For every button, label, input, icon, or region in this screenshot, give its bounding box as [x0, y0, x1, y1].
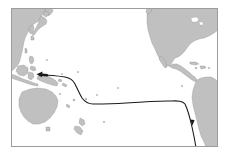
land-french-polynesia — [117, 87, 118, 88]
land-coral-sea-islet — [59, 93, 61, 95]
land-taiwan — [25, 48, 27, 53]
map-canvas — [0, 0, 229, 155]
land-vanuatu — [73, 99, 75, 101]
land-marshall-islands — [77, 71, 78, 72]
land-fiji — [85, 98, 87, 100]
land-jamaica — [195, 67, 197, 69]
land-galapagos — [181, 85, 183, 87]
land-mariana-islands — [46, 59, 47, 60]
land-chatham-islands — [103, 121, 105, 123]
land-puerto-rico — [208, 67, 210, 69]
pacific-route-map-figure — [0, 0, 229, 155]
land-samoa — [96, 94, 97, 95]
land-tasmania — [46, 127, 50, 131]
route-terminus-stub — [40, 75, 47, 76]
land-palau — [61, 73, 62, 74]
map-page — [0, 0, 229, 155]
